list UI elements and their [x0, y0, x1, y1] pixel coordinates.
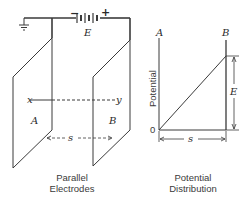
width-s-label: s	[188, 133, 193, 144]
separation-label: s	[68, 132, 73, 143]
right-caption-line2: Distribution	[169, 183, 217, 194]
height-e-label: E	[229, 86, 238, 97]
potential-line	[159, 56, 226, 130]
right-caption-line1: Potential	[175, 172, 212, 183]
electrode-plate-b	[93, 40, 130, 166]
ground-icon	[19, 18, 29, 30]
separation-arrow	[47, 136, 112, 140]
plate-b-label: B	[108, 115, 116, 126]
potential-graph	[159, 38, 239, 142]
left-caption-line1: Parallel	[56, 172, 88, 183]
battery-plus-label: +	[101, 6, 110, 19]
battery-icon	[77, 13, 97, 23]
origin-label: 0	[150, 124, 155, 135]
axis-end-label: y	[115, 94, 122, 105]
battery-minus-label: −	[70, 7, 79, 20]
graph-axis-b-label: B	[221, 27, 229, 38]
plate-a-label: A	[30, 115, 38, 126]
y-axis-label: Potential	[147, 70, 158, 107]
battery-voltage-label: E	[83, 27, 92, 38]
left-caption-line2: Electrodes	[50, 183, 95, 194]
axis-start-label: x	[27, 94, 33, 105]
graph-axis-a-label: A	[155, 27, 163, 38]
parallel-electrodes-diagram: − + E x y A B s Parallel Electrodes A B …	[0, 0, 249, 203]
